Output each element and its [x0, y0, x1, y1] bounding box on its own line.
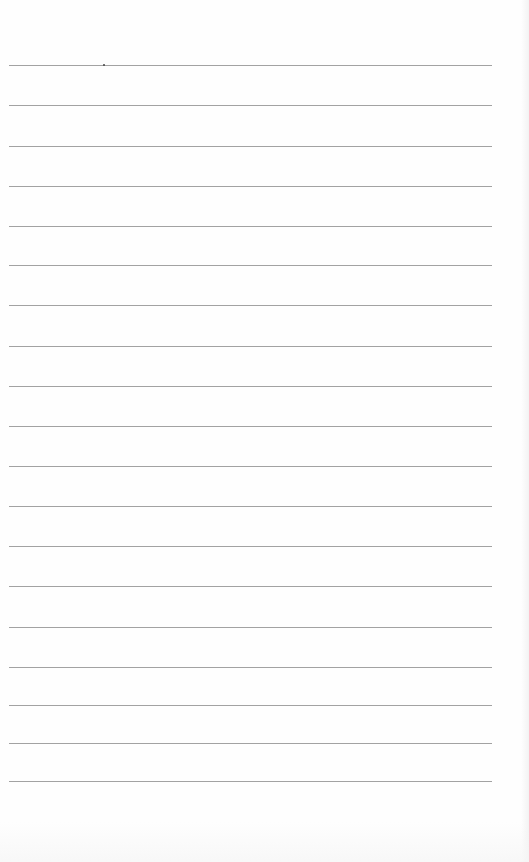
ruled-line [9, 105, 492, 106]
ruled-line [9, 65, 492, 66]
ruled-line [9, 186, 492, 187]
ruled-line [9, 265, 492, 266]
ruled-line [9, 146, 492, 147]
ruled-line [9, 627, 492, 628]
bleed-through-area [0, 822, 529, 862]
ruled-line [9, 226, 492, 227]
ruled-line [9, 667, 492, 668]
ink-speck [103, 64, 105, 66]
ruled-line [9, 466, 492, 467]
notebook-page [0, 0, 529, 862]
ruled-line [9, 506, 492, 507]
ruled-line [9, 743, 492, 744]
ruled-line [9, 346, 492, 347]
ruled-line [9, 386, 492, 387]
ruled-line [9, 586, 492, 587]
ruled-line [9, 426, 492, 427]
ruled-line [9, 546, 492, 547]
ruled-line [9, 305, 492, 306]
page-edge-shadow [521, 0, 529, 862]
ruled-line [9, 705, 492, 706]
ruled-line [9, 781, 492, 782]
